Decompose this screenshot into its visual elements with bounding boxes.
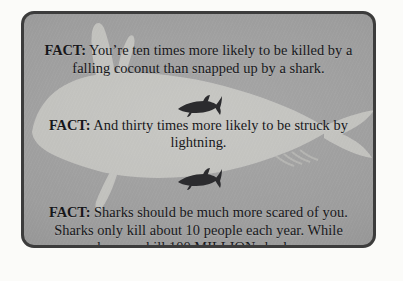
fact-label: FACT: <box>49 204 90 220</box>
fact-card: FACT: You’re ten times more likely to be… <box>21 11 376 248</box>
fact-label: FACT: <box>49 117 90 133</box>
fact-text: You’re ten times more likely to be kille… <box>72 42 352 75</box>
shark-divider <box>176 95 222 117</box>
fact-text: Sharks should be much more scared of you… <box>54 204 348 248</box>
small-shark-silhouette-icon <box>176 168 222 190</box>
shark-divider <box>176 168 222 190</box>
fact-text: And thirty times more likely to be struc… <box>90 117 348 150</box>
poster: FACT: You’re ten times more likely to be… <box>0 0 403 281</box>
fact-item: FACT: You’re ten times more likely to be… <box>32 42 366 77</box>
fact-item: FACT: And thirty times more likely to be… <box>32 117 366 152</box>
fact-label: FACT: <box>45 42 86 58</box>
small-shark-silhouette-icon <box>176 95 222 117</box>
card-content: FACT: You’re ten times more likely to be… <box>24 14 373 245</box>
fact-item: FACT: Sharks should be much more scared … <box>32 204 366 248</box>
